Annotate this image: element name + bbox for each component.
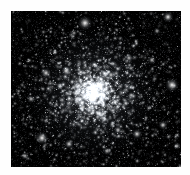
astronomy-image-frame xyxy=(11,11,181,167)
star-field-canvas xyxy=(11,11,181,167)
image-viewport xyxy=(0,0,190,175)
